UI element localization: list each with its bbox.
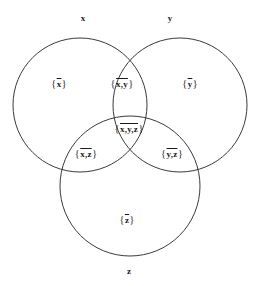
set-items: x,y,z xyxy=(120,124,139,134)
circle-name-z: z xyxy=(127,267,131,276)
set-close-brace: } xyxy=(193,78,198,89)
region-label-z-only: {z} xyxy=(119,215,134,225)
set-items: y,z xyxy=(166,149,178,159)
set-close-brace: } xyxy=(130,214,135,225)
set-close-brace: } xyxy=(62,78,67,89)
venn-diagram-page: x y z {x} {x,y} {y} {x,y,z} {x,z} {y,z} … xyxy=(0,0,260,286)
region-label-y-only: {y} xyxy=(182,79,198,89)
set-close-brace: } xyxy=(139,123,144,134)
region-label-x-only: {x} xyxy=(51,79,67,89)
region-label-y-z: {y,z} xyxy=(161,149,183,159)
set-close-brace: } xyxy=(178,148,183,159)
region-label-x-z: {x,z} xyxy=(75,149,97,159)
venn-circles-group xyxy=(0,0,260,286)
circle-z xyxy=(60,116,200,256)
set-items: x,y xyxy=(116,79,129,89)
region-label-x-y-z: {x,y,z} xyxy=(115,124,144,134)
circle-name-x: x xyxy=(81,14,86,23)
set-items: x,z xyxy=(80,149,92,159)
region-label-x-y: {x,y} xyxy=(111,79,134,89)
set-close-brace: } xyxy=(128,78,133,89)
circle-name-y: y xyxy=(168,14,173,23)
set-close-brace: } xyxy=(92,148,97,159)
